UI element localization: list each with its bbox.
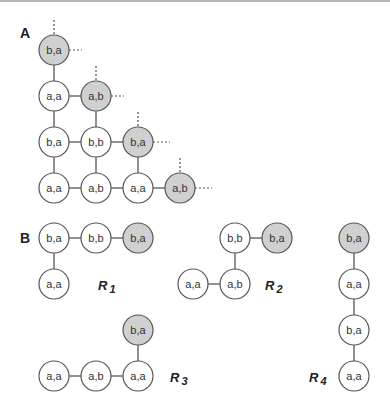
lattice-node: a,a [39, 173, 69, 203]
node-label: b,a [130, 136, 146, 148]
node-label: a,a [185, 278, 201, 290]
node-label: b,a [130, 232, 146, 244]
r2-label: R2 [265, 278, 283, 295]
r4-node: a,a [339, 269, 369, 299]
node-label: a,a [46, 278, 62, 290]
node-label: b,a [46, 136, 62, 148]
node-label: a,a [346, 278, 362, 290]
node-label: b,b [88, 232, 103, 244]
panel-b-nodes: b,ab,bb,aa,ab,bb,aa,ba,ab,aa,aa,ba,ab,aa… [39, 223, 369, 391]
panel-b-edges [54, 238, 354, 376]
r3-label: R3 [170, 370, 188, 387]
lattice-node: b,a [39, 127, 69, 157]
panel-a-label: A [20, 25, 30, 41]
node-label: b,a [346, 232, 362, 244]
r1-node: b,b [81, 223, 111, 253]
node-label: a,a [130, 182, 146, 194]
r2-node: a,b [220, 269, 250, 299]
lattice-diagram: A B b,aa,aa,bb,ab,bb,aa,aa,ba,aa,b b,ab,… [0, 0, 390, 409]
node-label: b,a [269, 232, 285, 244]
lattice-node: a,a [123, 173, 153, 203]
node-label: b,a [346, 324, 362, 336]
node-label: b,a [130, 324, 146, 336]
lattice-node: b,b [81, 127, 111, 157]
r2-node: b,b [220, 223, 250, 253]
r4-label: R4 [309, 370, 327, 387]
r1-node: b,a [123, 223, 153, 253]
lattice-node: a,b [165, 173, 195, 203]
node-label: a,b [172, 182, 187, 194]
lattice-node: b,a [39, 35, 69, 65]
panel-a-nodes: b,aa,aa,bb,ab,bb,aa,aa,ba,aa,b [39, 35, 195, 203]
r3-node: b,a [123, 315, 153, 345]
r1-label: R1 [98, 278, 116, 295]
lattice-node: a,b [81, 173, 111, 203]
r1-node: a,a [39, 269, 69, 299]
lattice-node: a,a [39, 81, 69, 111]
node-label: b,b [227, 232, 242, 244]
r3-node: a,b [81, 361, 111, 391]
node-label: a,b [88, 90, 103, 102]
r4-node: b,a [339, 223, 369, 253]
node-label: a,b [88, 370, 103, 382]
node-label: a,a [130, 370, 146, 382]
r4-node: b,a [339, 315, 369, 345]
node-label: a,b [227, 278, 242, 290]
node-label: a,a [46, 370, 62, 382]
node-label: a,a [346, 370, 362, 382]
panel-b-label: B [20, 230, 30, 246]
node-label: a,a [46, 90, 62, 102]
lattice-node: b,a [123, 127, 153, 157]
r2-node: a,a [178, 269, 208, 299]
r3-node: a,a [39, 361, 69, 391]
node-label: a,a [46, 182, 62, 194]
panel-a-edges [54, 20, 212, 188]
node-label: a,b [88, 182, 103, 194]
r1-node: b,a [39, 223, 69, 253]
r2-node: b,a [262, 223, 292, 253]
r3-node: a,a [123, 361, 153, 391]
node-label: b,a [46, 232, 62, 244]
lattice-node: a,b [81, 81, 111, 111]
r4-node: a,a [339, 361, 369, 391]
node-label: b,a [46, 44, 62, 56]
node-label: b,b [88, 136, 103, 148]
